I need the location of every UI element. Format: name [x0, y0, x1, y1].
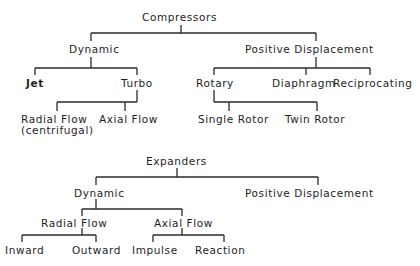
- node-expander-radial-flow: Radial Flow: [41, 218, 107, 229]
- compressors-connectors: [35, 25, 370, 111]
- node-rotary: Rotary: [196, 78, 234, 89]
- node-diaphragm: Diaphragm: [272, 78, 336, 89]
- node-outward: Outward: [72, 245, 121, 256]
- node-expanders-positive-displacement: Positive Displacement: [245, 188, 374, 199]
- node-expanders: Expanders: [146, 156, 207, 167]
- node-radial-flow-centrifugal-subtitle: (centrifugal): [21, 125, 94, 136]
- node-single-rotor: Single Rotor: [198, 114, 269, 125]
- node-compressor-axial-flow: Axial Flow: [99, 114, 158, 125]
- node-twin-rotor: Twin Rotor: [285, 114, 345, 125]
- node-reciprocating: Reciprocating: [333, 78, 413, 89]
- classification-diagram: Compressors Dynamic Positive Displacemen…: [0, 0, 420, 266]
- node-jet: Jet: [26, 78, 44, 89]
- node-compressors-dynamic: Dynamic: [69, 44, 120, 55]
- node-compressors: Compressors: [142, 12, 217, 23]
- node-impulse: Impulse: [132, 245, 178, 256]
- node-inward: Inward: [5, 245, 44, 256]
- node-reaction: Reaction: [195, 245, 245, 256]
- node-expander-axial-flow: Axial Flow: [154, 218, 213, 229]
- node-compressors-positive-displacement: Positive Displacement: [245, 44, 374, 55]
- node-expanders-dynamic: Dynamic: [74, 188, 125, 199]
- node-turbo: Turbo: [121, 78, 153, 89]
- expanders-connectors: [22, 168, 318, 242]
